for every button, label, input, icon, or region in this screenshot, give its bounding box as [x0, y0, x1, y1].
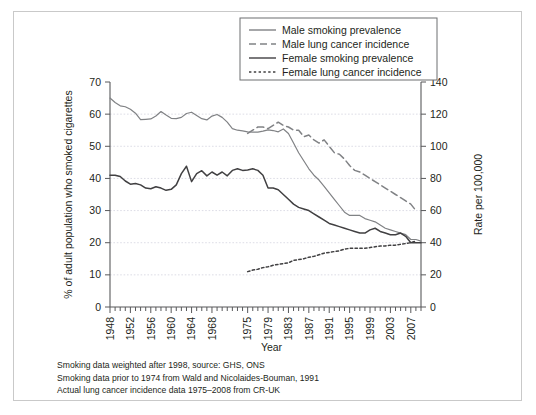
series-line-1: [110, 98, 421, 241]
y-left-tick-label: 40: [89, 172, 101, 184]
x-tick-label: 1948: [104, 317, 116, 341]
y-left-tick-label: 50: [89, 140, 101, 152]
series-line-4: [248, 241, 416, 272]
footnote-3: Actual lung cancer incidence data 1975–2…: [57, 385, 280, 395]
y-right-tick-label: 100: [430, 140, 448, 152]
footnote-2: Smoking data prior to 1974 from Wald and…: [57, 373, 319, 383]
y-axis-left-title: % of adult population who smoked cigaret…: [62, 90, 74, 298]
y-left-tick-label: 20: [89, 236, 101, 248]
y-left-tick-label: 70: [89, 76, 101, 88]
x-tick-label: 1999: [364, 317, 376, 341]
x-tick-label: 1979: [262, 317, 274, 341]
line-chart: 0102030405060700204060801001201401948195…: [0, 0, 536, 415]
legend-label-4: Female lung cancer incidence: [282, 66, 422, 78]
series-line-2: [248, 122, 416, 210]
y-right-tick-label: 40: [430, 236, 442, 248]
x-tick-label: 1952: [124, 317, 136, 341]
footnote-1: Smoking data weighted after 1998, source…: [57, 360, 265, 370]
legend-label-2: Male lung cancer incidence: [282, 38, 409, 50]
x-tick-label: 2003: [384, 317, 396, 341]
x-tick-label: 1960: [165, 317, 177, 341]
series-line-3: [110, 166, 421, 243]
x-tick-label: 1975: [241, 317, 253, 341]
x-tick-label: 1995: [343, 317, 355, 341]
x-tick-label: 1968: [206, 317, 218, 341]
y-left-tick-label: 30: [89, 204, 101, 216]
x-tick-label: 1964: [185, 317, 197, 341]
y-axis-right-title: Rate per 100,000: [472, 154, 484, 235]
x-tick-label: 2007: [405, 317, 417, 341]
chart-canvas: 0102030405060700204060801001201401948195…: [0, 0, 536, 415]
x-tick-label: 1956: [145, 317, 157, 341]
legend-label-3: Female smoking prevalence: [282, 52, 413, 64]
y-right-tick-label: 20: [430, 268, 442, 280]
x-axis-title: Year: [261, 341, 283, 353]
y-right-tick-label: 80: [430, 172, 442, 184]
y-left-tick-label: 10: [89, 268, 101, 280]
y-right-tick-label: 60: [430, 204, 442, 216]
y-left-tick-label: 60: [89, 108, 101, 120]
y-left-tick-label: 0: [95, 301, 101, 313]
y-right-tick-label: 120: [430, 108, 448, 120]
x-tick-label: 1983: [282, 317, 294, 341]
x-tick-label: 1991: [323, 317, 335, 341]
x-tick-label: 1987: [303, 317, 315, 341]
y-right-tick-label: 0: [430, 301, 436, 313]
legend-label-1: Male smoking prevalence: [282, 24, 401, 36]
